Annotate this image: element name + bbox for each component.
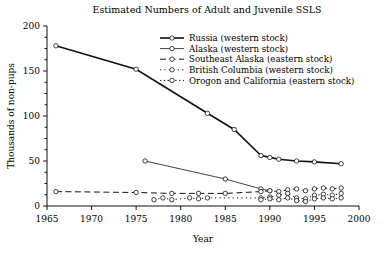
data-point-marker bbox=[321, 186, 325, 190]
data-point-marker bbox=[312, 197, 316, 201]
y-tick-label: 200 bbox=[23, 21, 40, 31]
legend-marker-icon bbox=[170, 57, 174, 61]
data-point-marker bbox=[232, 127, 236, 131]
data-point-marker bbox=[339, 186, 343, 190]
legend: Russia (western stock)Alaska (western st… bbox=[160, 33, 354, 85]
data-point-marker bbox=[268, 155, 272, 159]
legend-label: Alaska (western stock) bbox=[188, 44, 288, 54]
data-point-marker bbox=[303, 189, 307, 193]
data-point-marker bbox=[277, 157, 281, 161]
data-point-marker bbox=[294, 159, 298, 163]
chart-container: Estimated Numbers of Adult and Juvenile … bbox=[0, 0, 385, 261]
data-point-marker bbox=[321, 196, 325, 200]
x-tick-label: 1980 bbox=[169, 214, 192, 224]
data-point-marker bbox=[134, 67, 138, 71]
data-point-marker bbox=[54, 189, 58, 193]
x-tick-label: 1995 bbox=[303, 214, 326, 224]
legend-label: Orogon and California (eastern stock) bbox=[189, 76, 354, 86]
y-axis-label: Thousands of non-pups bbox=[6, 63, 16, 169]
data-point-marker bbox=[277, 193, 281, 197]
data-point-marker bbox=[205, 196, 209, 200]
legend-label: Russia (western stock) bbox=[189, 33, 288, 43]
x-tick-label: 1985 bbox=[214, 214, 237, 224]
data-point-marker bbox=[285, 191, 289, 195]
legend-marker-icon bbox=[170, 68, 174, 72]
data-point-marker bbox=[196, 191, 200, 195]
data-point-marker bbox=[312, 187, 316, 191]
data-point-marker bbox=[339, 196, 343, 200]
data-point-marker bbox=[170, 198, 174, 202]
data-point-marker bbox=[143, 159, 147, 163]
data-point-marker bbox=[294, 198, 298, 202]
legend-marker-icon bbox=[170, 36, 174, 40]
data-point-marker bbox=[294, 187, 298, 191]
data-point-marker bbox=[285, 196, 289, 200]
data-point-marker bbox=[339, 162, 343, 166]
x-axis-label: Year bbox=[192, 234, 214, 244]
data-point-marker bbox=[205, 111, 209, 115]
x-tick-label: 1990 bbox=[258, 214, 281, 224]
x-tick-label: 1965 bbox=[36, 214, 59, 224]
legend-label: British Columbia (western stock) bbox=[189, 65, 333, 75]
data-point-marker bbox=[259, 198, 263, 202]
series-line bbox=[261, 198, 341, 202]
data-point-marker bbox=[152, 198, 156, 202]
data-point-marker bbox=[223, 177, 227, 181]
x-tick-label: 1975 bbox=[125, 214, 148, 224]
data-point-marker bbox=[277, 198, 281, 202]
series-line bbox=[145, 161, 270, 191]
data-point-marker bbox=[312, 160, 316, 164]
y-tick-label: 100 bbox=[23, 111, 40, 121]
x-tick-label: 2000 bbox=[348, 214, 371, 224]
data-point-marker bbox=[54, 44, 58, 48]
data-point-marker bbox=[268, 189, 272, 193]
data-point-marker bbox=[161, 196, 165, 200]
data-point-marker bbox=[187, 196, 191, 200]
series-1 bbox=[143, 159, 272, 193]
data-point-marker bbox=[303, 199, 307, 203]
legend-marker-icon bbox=[170, 46, 174, 50]
y-tick-label: 150 bbox=[23, 66, 40, 76]
series-2 bbox=[54, 186, 344, 196]
y-tick-label: 0 bbox=[34, 201, 40, 211]
x-tick-label: 1970 bbox=[80, 214, 103, 224]
data-point-marker bbox=[259, 189, 263, 193]
ssls-line-chart: Estimated Numbers of Adult and Juvenile … bbox=[0, 0, 385, 261]
legend-marker-icon bbox=[170, 78, 174, 82]
data-point-marker bbox=[223, 191, 227, 195]
data-point-marker bbox=[170, 191, 174, 195]
y-tick-label: 50 bbox=[29, 156, 41, 166]
data-point-marker bbox=[330, 187, 334, 191]
data-point-marker bbox=[339, 191, 343, 195]
data-point-marker bbox=[134, 190, 138, 194]
series-4 bbox=[259, 196, 344, 204]
data-point-marker bbox=[330, 197, 334, 201]
data-point-marker bbox=[196, 197, 200, 201]
data-point-marker bbox=[268, 197, 272, 201]
chart-title: Estimated Numbers of Adult and Juvenile … bbox=[93, 4, 322, 15]
legend-label: Southeast Alaska (eastern stock) bbox=[189, 54, 332, 64]
data-point-marker bbox=[259, 153, 263, 157]
